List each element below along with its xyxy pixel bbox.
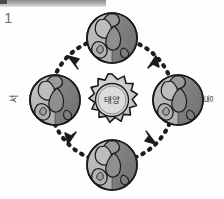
sun-body: 태양: [89, 74, 137, 123]
orbit-arrow-lower-right: [145, 131, 156, 144]
orbit-arrow-upper-left: [68, 56, 79, 69]
orbit-arrow-lower-left: [65, 132, 76, 144]
earth-right: [153, 75, 203, 125]
earth-top: [87, 13, 137, 63]
direction-label-east: 동: [205, 95, 214, 103]
earth-left: [30, 75, 80, 125]
revolution-diagram: 태양: [0, 0, 224, 199]
sun-label: 태양: [104, 95, 120, 105]
direction-label-west: 서: [10, 95, 19, 103]
figure-page: 1: [0, 0, 224, 199]
earth-bottom: [87, 140, 137, 190]
